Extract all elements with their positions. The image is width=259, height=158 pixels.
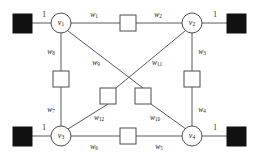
terminal-edge-label-top-right: 1 [213, 10, 217, 19]
weight-label-w10-sub: 10 [155, 116, 161, 122]
terminal-edge-label-top-left: 1 [42, 10, 46, 19]
weight-label-w4: w4 [198, 105, 206, 115]
edge-v2-diagbox-left [116, 31, 185, 88]
weight-label-w7: w7 [47, 105, 55, 115]
weight-label-w10: w10 [150, 113, 161, 123]
node-label-v4-sub: 4 [192, 134, 195, 140]
weight-label-w1: w1 [90, 10, 98, 20]
edge-box-diagonal-left [100, 88, 116, 104]
weight-label-w7-sub: 7 [52, 108, 55, 114]
weight-label-w11: w11 [152, 58, 162, 68]
weight-label-w2: w2 [154, 10, 162, 20]
weight-label-w6: w6 [90, 142, 98, 152]
weight-label-w12: w12 [94, 113, 105, 123]
edge-box-right [184, 71, 200, 87]
weight-label-w11-sub: 11 [157, 61, 162, 67]
node-label-v1-sub: 1 [61, 21, 64, 27]
edge-box-diagonal-right [135, 88, 151, 104]
weight-label-w5-sub: 5 [160, 145, 163, 151]
weight-label-w3: w3 [198, 47, 206, 57]
edge-box-bottom [120, 128, 136, 144]
edge-box-top [120, 15, 136, 31]
weight-label-w9-sub: 9 [97, 61, 100, 67]
terminal-layer [13, 14, 246, 146]
terminal-bottom-left [13, 127, 32, 146]
terminal-top-right [227, 14, 246, 33]
weight-label-w2-sub: 2 [159, 13, 162, 19]
node-label-v2-sub: 2 [192, 21, 195, 27]
graph-canvas: v1 v2 v3 v4 1 1 1 1 w1 w2 [0, 0, 259, 158]
terminal-bottom-right [227, 127, 246, 146]
weight-label-w3-sub: 3 [203, 50, 206, 56]
edge-v1-diagbox-right [68, 31, 143, 88]
network-graph-figure: v1 v2 v3 v4 1 1 1 1 w1 w2 [0, 0, 259, 158]
node-label-v3-sub: 3 [61, 134, 64, 140]
terminal-top-left [13, 14, 32, 33]
weight-label-w1-sub: 1 [95, 13, 98, 19]
edge-box-left [53, 71, 69, 87]
weight-label-w8-sub: 8 [52, 50, 55, 56]
terminal-edge-label-bottom-left: 1 [42, 123, 46, 132]
weight-label-w12-sub: 12 [99, 116, 105, 122]
weight-label-w6-sub: 6 [95, 145, 98, 151]
weight-label-w5: w5 [155, 142, 163, 152]
terminal-edge-label-bottom-right: 1 [213, 123, 217, 132]
weight-label-w4-sub: 4 [203, 108, 206, 114]
weight-label-w8: w8 [47, 47, 55, 57]
weight-label-w9: w9 [92, 58, 100, 68]
